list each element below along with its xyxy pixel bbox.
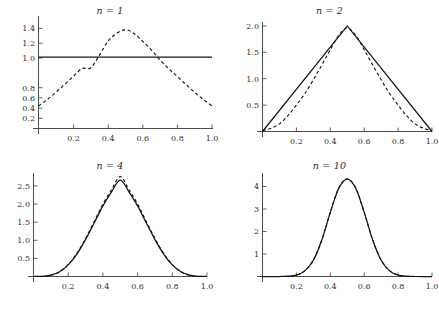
panel-n2-dashed-curve [263,28,433,131]
panel-n10: n = 10 1 2 3 4 0.2 0.4 0. [220,155,439,310]
panel-n2: n = 2 0.5 1.0 1.5 2.0 0.2 0.4 [220,0,439,155]
panel-n1-xlabel-0: 0.2 [67,134,80,143]
panel-n10-y-ticks [263,187,267,255]
panel-n4-xlabel-1: 0.4 [97,282,110,291]
panel-n4-xlabel-3: 0.8 [166,282,179,291]
panel-n1-ylabel-2: 0.6 [22,94,35,103]
panel-n10-xlabel-3: 0.8 [392,282,405,291]
panel-n4-plot: 0.5 1.0 1.5 2.0 2.5 0.2 0.4 0.6 0.8 1.0 [0,155,220,310]
panel-n4-dashed-curve [34,177,208,277]
panel-n10-ylabel-3: 4 [254,182,259,191]
panel-n1-x-ticks [74,125,212,129]
panel-n2-ylabel-1: 1.0 [246,75,259,84]
panel-n2-x-ticks [296,128,432,132]
panel-n10-plot: 1 2 3 4 0.2 0.4 0.6 0.8 1.0 [220,155,439,310]
panel-n2-ylabel-2: 1.5 [246,48,259,57]
panel-n4-ylabel-2: 1.5 [17,218,30,227]
panel-n2-xlabel-3: 0.8 [392,137,405,146]
panel-n2-plot: 0.5 1.0 1.5 2.0 0.2 0.4 0.6 0.8 1.0 [220,0,439,155]
panel-n4-solid-curve [34,180,208,276]
panel-n10-dashed-curve [263,179,433,277]
panel-n10-xlabel-0: 0.2 [290,282,303,291]
panel-n1-ylabel-0: 0.2 [22,114,35,123]
panel-n2-xlabel-1: 0.4 [324,137,337,146]
panel-n10-solid-curve [263,179,433,276]
panel-n2-y-ticks [263,26,267,105]
panel-n4-xlabel-0: 0.2 [62,282,75,291]
panel-n10-xlabel-2: 0.6 [358,282,371,291]
panel-n1-ylabel-1: 0.4 [22,104,35,113]
panel-n1-ylabel-5: 1.2 [22,39,35,48]
panel-n4-y-ticks [34,186,38,258]
panel-n4-ylabel-3: 2.0 [17,200,30,209]
figure-grid: n = 1 0.2 0.4 0.6 0.8 1.0 1.2 1.4 [0,0,439,310]
panel-n10-ylabel-0: 1 [254,250,259,259]
panel-n4-xlabel-4: 1.0 [201,282,214,291]
panel-n1-plot: 0.2 0.4 0.6 0.8 1.0 1.2 1.4 0.2 0.4 0.6 … [0,0,220,155]
panel-n4-ylabel-1: 1.0 [17,236,30,245]
panel-n10-ylabel-2: 3 [254,205,259,214]
panel-n2-xlabel-2: 0.6 [358,137,371,146]
panel-n1-xlabel-4: 1.0 [206,134,219,143]
panel-n4-ylabel-4: 2.5 [17,182,30,191]
panel-n2-xlabel-0: 0.2 [290,137,303,146]
panel-n4: n = 4 0.5 1.0 1.5 2.0 2.5 [0,155,220,310]
panel-n4-xlabel-2: 0.6 [131,282,144,291]
panel-n2-xlabel-4: 1.0 [426,137,439,146]
panel-n10-ylabel-1: 2 [254,227,259,236]
panel-n1-ylabel-4: 1.0 [22,54,35,63]
panel-n2-ylabel-3: 2.0 [246,22,259,31]
panel-n1-xlabel-1: 0.4 [102,134,115,143]
panel-n1-xlabel-2: 0.6 [136,134,149,143]
panel-n4-ylabel-0: 0.5 [17,254,30,263]
panel-n10-xlabel-4: 1.0 [426,282,439,291]
panel-n1-ylabel-6: 1.4 [22,24,35,33]
panel-n1-dashed-curve [39,30,213,106]
panel-n1: n = 1 0.2 0.4 0.6 0.8 1.0 1.2 1.4 [0,0,220,155]
panel-n2-ylabel-0: 0.5 [246,101,259,110]
panel-n1-xlabel-3: 0.8 [171,134,184,143]
panel-n10-xlabel-1: 0.4 [324,282,337,291]
panel-n1-ylabel-3: 0.8 [22,84,35,93]
